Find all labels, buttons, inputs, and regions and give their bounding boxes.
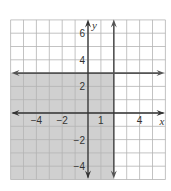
y-axis-label: y <box>91 19 97 31</box>
y-tick-label: −4 <box>74 161 86 172</box>
x-axis-label: x <box>158 115 164 127</box>
y-tick-label: −2 <box>74 135 86 146</box>
y-tick-label: 2 <box>79 81 85 92</box>
x-tick-label: −2 <box>56 115 68 126</box>
y-tick-label: 6 <box>79 28 85 39</box>
x-tick-label: 4 <box>137 115 143 126</box>
y-tick-label: 4 <box>79 55 85 66</box>
coordinate-graph: −4−214642−2−4 x y <box>0 0 171 191</box>
x-tick-label: 1 <box>98 115 104 126</box>
x-tick-label: −4 <box>31 115 43 126</box>
